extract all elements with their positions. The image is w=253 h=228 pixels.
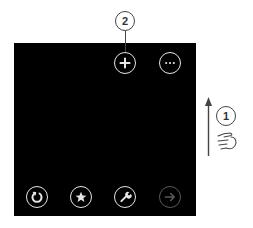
- favorites-button[interactable]: [70, 186, 92, 208]
- forward-button[interactable]: [159, 186, 181, 208]
- callout-2: 2: [115, 11, 135, 31]
- add-button[interactable]: [114, 52, 136, 74]
- wrench-icon: [115, 187, 135, 207]
- more-button[interactable]: [159, 52, 181, 74]
- callout-2-leader-line: [125, 31, 126, 52]
- star-icon: [71, 187, 91, 207]
- refresh-icon: [27, 187, 47, 207]
- refresh-button[interactable]: [26, 186, 48, 208]
- plus-icon: [115, 53, 135, 73]
- callout-1: 1: [216, 106, 236, 126]
- ellipsis-icon: [160, 53, 180, 73]
- tools-button[interactable]: [114, 186, 136, 208]
- forward-arrow-icon: [160, 187, 180, 207]
